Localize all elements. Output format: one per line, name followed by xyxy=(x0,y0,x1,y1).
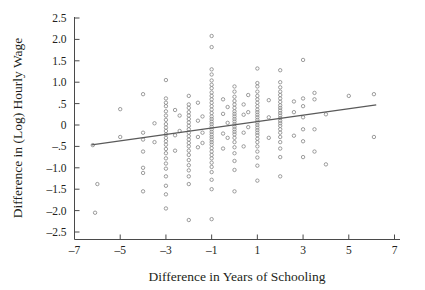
x-tick-label: 5 xyxy=(346,244,352,256)
x-tick-label: 1 xyxy=(254,244,260,256)
x-tick-label: –1 xyxy=(205,244,218,256)
x-axis-label: Difference in Years of Schooling xyxy=(148,269,325,284)
x-tick-label: –5 xyxy=(113,244,126,256)
y-tick-label: 2.5 xyxy=(52,12,67,24)
y-tick-label: –1.5 xyxy=(45,183,66,195)
x-tick-label: 3 xyxy=(300,244,306,256)
y-tick-label: 2.0 xyxy=(52,33,67,45)
y-tick-label: 0 xyxy=(61,119,67,131)
scatter-plot-figure: 2.52.01.51.0.50–.5–1.0–1.5–2.0–2.5 –7–5–… xyxy=(0,0,425,290)
y-tick-label: –2.0 xyxy=(45,205,66,217)
y-tick-label: .5 xyxy=(58,98,67,110)
y-tick-label: 1.0 xyxy=(52,76,67,88)
y-axis-label: Difference in (Log) Hourly Wage xyxy=(10,38,25,219)
x-tick-label: 7 xyxy=(392,244,398,256)
x-tick-label: –7 xyxy=(68,244,81,256)
y-tick-label: –2.5 xyxy=(45,226,66,238)
y-tick-label: –1.0 xyxy=(45,162,66,174)
y-tick-label: –.5 xyxy=(51,140,67,152)
y-tick-label: 1.5 xyxy=(52,55,67,67)
x-tick-label: –3 xyxy=(159,244,172,256)
